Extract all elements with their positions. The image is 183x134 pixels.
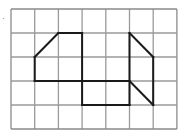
outlined-shape — [35, 33, 154, 105]
shape-edge — [35, 33, 59, 57]
shape-edge — [130, 81, 154, 105]
shape-edge — [130, 33, 154, 57]
square-grid — [11, 9, 177, 129]
grid-figure — [0, 0, 183, 134]
